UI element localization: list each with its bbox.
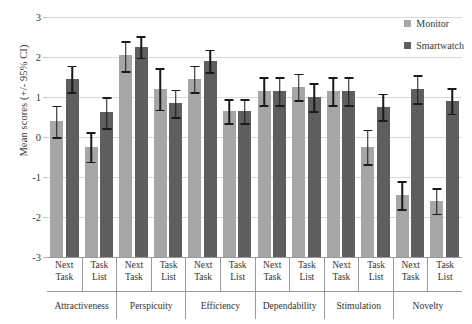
subgroup-label-line: Task <box>90 260 108 272</box>
bar-smartwatch-attractiveness-next-task <box>66 79 79 257</box>
error-bar <box>194 66 196 92</box>
subgroup-label-stimulation-task-list: TaskList <box>358 258 393 291</box>
subgroup-label-attractiveness-task-list: TaskList <box>82 258 117 291</box>
error-bar <box>402 181 404 209</box>
bar-monitor-attractiveness-next-task <box>50 121 63 257</box>
error-bar-cap-lower <box>137 58 146 60</box>
bar-smartwatch-stimulation-next-task <box>342 91 355 257</box>
error-bar-cap-lower <box>68 92 77 94</box>
error-bar-cap-lower <box>344 105 353 107</box>
group-label-stimulation: Stimulation <box>324 292 393 319</box>
error-bar-cap-upper <box>363 130 372 132</box>
subgroup-label-line: Task <box>125 272 143 284</box>
subgroup-label-line: List <box>299 272 314 284</box>
y-tick-label: 0 <box>36 132 41 143</box>
error-bar-cap-lower <box>310 111 319 113</box>
error-bar-cap-lower <box>240 123 249 125</box>
subgroup-label-novelty-task-list: TaskList <box>427 258 462 291</box>
error-bar-cap-lower <box>87 162 96 164</box>
subgroup-label-attractiveness-next-task: NextTask <box>47 258 82 291</box>
error-bar-cap-lower <box>413 103 422 105</box>
error-bar-cap-lower <box>225 123 234 125</box>
bar-smartwatch-novelty-next-task <box>411 89 424 257</box>
error-bar <box>56 106 58 137</box>
error-bar-cap-lower <box>379 120 388 122</box>
legend-label-monitor: Monitor <box>416 18 449 29</box>
error-bar <box>279 77 281 105</box>
subgroup-label-line: Next <box>263 260 281 272</box>
error-bar-cap-lower <box>102 128 111 130</box>
error-bar <box>125 41 127 71</box>
subgroup-label-line: List <box>230 272 245 284</box>
error-bar-cap-upper <box>102 97 111 99</box>
error-bar-cap-lower <box>294 100 303 102</box>
legend-item-monitor: Monitor <box>404 18 464 29</box>
legend-swatch-monitor-icon <box>404 20 411 27</box>
subgroup-label-perspicuity-next-task: NextTask <box>116 258 151 291</box>
error-bar <box>160 68 162 110</box>
y-tick-label: -1 <box>32 172 41 183</box>
error-bar-cap-lower <box>206 72 215 74</box>
subgroup-label-line: List <box>161 272 176 284</box>
subgroup-label-line: Next <box>55 260 73 272</box>
error-bar-cap-upper <box>206 50 215 52</box>
bar-smartwatch-dependability-task-list <box>308 97 321 257</box>
bar-monitor-efficiency-next-task <box>188 79 201 257</box>
subgroup-label-dependability-task-list: TaskList <box>289 258 324 291</box>
error-bar <box>348 77 350 105</box>
subgroup-label-line: List <box>438 272 453 284</box>
error-bar <box>383 94 385 120</box>
error-bar-cap-upper <box>294 74 303 76</box>
error-bar <box>140 36 142 58</box>
error-bar <box>71 66 73 92</box>
subgroup-label-line: List <box>92 272 107 284</box>
bar-monitor-dependability-next-task <box>258 91 271 257</box>
subgroup-label-dependability-next-task: NextTask <box>255 258 290 291</box>
error-bar-cap-upper <box>137 36 146 38</box>
subgroup-label-line: Task <box>194 272 212 284</box>
chart-legend: Monitor Smartwatch <box>404 18 464 62</box>
bar-monitor-efficiency-task-list <box>223 111 236 257</box>
bar-monitor-novelty-next-task <box>396 195 409 257</box>
y-tick-label: 3 <box>36 12 41 23</box>
subgroup-label-line: Task <box>402 272 420 284</box>
subgroup-label-novelty-next-task: NextTask <box>393 258 428 291</box>
error-bar <box>263 77 265 105</box>
error-bar-cap-lower <box>121 71 130 73</box>
bar-monitor-perspicuity-next-task <box>119 55 132 257</box>
error-bar <box>106 97 108 128</box>
error-bar-cap-lower <box>156 110 165 112</box>
subgroup-label-line: Next <box>125 260 143 272</box>
error-bar-cap-lower <box>171 117 180 119</box>
y-tick-label: -3 <box>32 252 41 263</box>
subgroup-label-line: List <box>369 272 384 284</box>
error-bar-cap-upper <box>448 88 457 90</box>
subgroup-label-line: Next <box>401 260 419 272</box>
group-label-novelty: Novelty <box>393 292 462 319</box>
error-bar <box>436 188 438 214</box>
legend-swatch-smartwatch-icon <box>404 42 411 49</box>
bar-monitor-stimulation-next-task <box>327 91 340 257</box>
error-bar-cap-lower <box>398 209 407 211</box>
error-bar-cap-lower <box>448 114 457 116</box>
error-bar-cap-lower <box>432 214 441 216</box>
error-bar-cap-lower <box>329 105 338 107</box>
error-bar-cap-upper <box>87 132 96 134</box>
bar-monitor-perspicuity-task-list <box>154 89 167 257</box>
error-bar-cap-upper <box>240 99 249 101</box>
bar-smartwatch-efficiency-next-task <box>204 61 217 257</box>
error-bar-cap-upper <box>432 188 441 190</box>
error-bar-cap-upper <box>260 77 269 79</box>
subgroup-label-line: Task <box>367 260 385 272</box>
subgroup-label-line: Task <box>55 272 73 284</box>
error-bar-cap-upper <box>310 83 319 85</box>
bar-smartwatch-efficiency-task-list <box>238 111 251 257</box>
bar-monitor-novelty-task-list <box>430 201 443 257</box>
error-bar <box>90 132 92 162</box>
error-bar-cap-lower <box>363 164 372 166</box>
subgroup-label-line: Task <box>333 272 351 284</box>
group-label-efficiency: Efficiency <box>185 292 254 319</box>
plot-area: 3210-1-2-3 <box>47 17 462 257</box>
subgroup-label-line: Next <box>194 260 212 272</box>
subgroup-label-line: Next <box>332 260 350 272</box>
